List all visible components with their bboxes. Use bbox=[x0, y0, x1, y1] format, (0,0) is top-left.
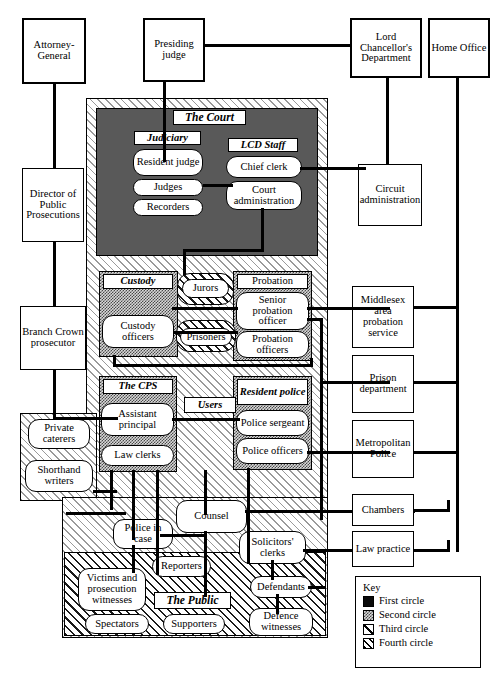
connector-cps-down-c bbox=[156, 470, 159, 575]
node-reporters: Reporters bbox=[152, 556, 211, 577]
node-label: Custody officers bbox=[105, 321, 171, 342]
external-box-home-office[interactable]: Home Office bbox=[428, 18, 490, 78]
connector-police-down-v bbox=[247, 468, 250, 564]
connector-custody-row-h bbox=[172, 307, 238, 310]
connector-probation-to-prison-h bbox=[307, 318, 323, 321]
connector-prison-dept-in bbox=[320, 381, 390, 384]
connector-solicitors-to-defendants bbox=[271, 560, 274, 580]
external-box-middlesex-area-probation-service[interactable]: Middlesex area probation service bbox=[352, 286, 414, 348]
external-box-law-practice[interactable]: Law practice bbox=[352, 531, 414, 567]
connector-chambers-right bbox=[414, 509, 450, 512]
connector-shorthand-to-public bbox=[93, 490, 117, 493]
legend-label-third-circle: Third circle bbox=[379, 624, 428, 635]
group-label-the-public: The Public bbox=[154, 592, 231, 609]
external-box-presiding-judge[interactable]: Presiding judge bbox=[143, 18, 205, 82]
node-label: Spectators bbox=[95, 619, 139, 630]
external-box-attorney-general[interactable]: Attorney-General bbox=[22, 18, 86, 84]
node-label: Probation officers bbox=[239, 334, 306, 355]
node-judges: Judges bbox=[133, 179, 203, 196]
node-court-administration: Court administration bbox=[226, 181, 302, 210]
connector-lawpractice-right bbox=[414, 549, 450, 552]
connector-defendants-right bbox=[308, 586, 326, 589]
connector-lawpractice-right-v bbox=[447, 540, 450, 552]
node-police-sergeant: Police sergeant bbox=[236, 410, 309, 436]
connector-home-office-to-middlesex bbox=[414, 306, 459, 309]
group-label-custody: Custody bbox=[103, 274, 173, 289]
group-label-lcd-staff: LCD Staff bbox=[228, 138, 298, 152]
node-counsel: Counsel bbox=[176, 500, 247, 533]
legend-row-fourth-circle: Fourth circle bbox=[363, 638, 474, 649]
node-label: Shorthand writers bbox=[28, 465, 90, 486]
legend-swatch-fourth-circle bbox=[363, 638, 374, 649]
node-label: Law clerks bbox=[114, 450, 160, 461]
external-box-label: Metropolitan Police bbox=[354, 438, 412, 460]
node-custody-officers: Custody officers bbox=[102, 315, 174, 348]
node-spectators: Spectators bbox=[85, 614, 149, 634]
external-box-metropolitan-police[interactable]: Metropolitan Police bbox=[352, 420, 414, 478]
external-box-director-public-prosecutions[interactable]: Director of Public Prosecutions bbox=[22, 168, 84, 242]
node-label: Counsel bbox=[194, 511, 228, 522]
connector-home-office-to-prison bbox=[414, 381, 459, 384]
external-box-label: Attorney-General bbox=[25, 40, 83, 62]
external-box-label: Lord Chancellor's Department bbox=[353, 32, 419, 65]
legend-swatch-third-circle bbox=[363, 624, 374, 635]
connector-home-office-to-met bbox=[414, 451, 459, 454]
legend-row-first-circle: First circle bbox=[363, 596, 474, 607]
connector-presiding-to-court bbox=[163, 82, 166, 162]
connector-attorney-to-dpp bbox=[53, 84, 56, 170]
node-victims-and-prosecution-witnesses: Victims and prosecution witnesses bbox=[78, 568, 146, 611]
connector-branch-prosecutor-to-cps-h bbox=[53, 417, 118, 420]
court-organisation-diagram: The Court Judiciary LCD Staff Resident j… bbox=[0, 0, 497, 683]
external-box-prison-department[interactable]: Prison department bbox=[352, 355, 414, 413]
connector-custody-bottom-h bbox=[113, 364, 313, 367]
node-resident-judge: Resident judge bbox=[133, 149, 203, 176]
connector-dpp-to-branch-prosecutor bbox=[53, 242, 56, 308]
node-supporters: Supporters bbox=[163, 614, 225, 634]
node-senior-probation-officer: Senior probation officer bbox=[236, 292, 309, 330]
node-label: Court administration bbox=[229, 185, 299, 206]
node-label: Senior probation officer bbox=[239, 295, 306, 327]
connector-courtadmin-down-h bbox=[183, 249, 264, 252]
connector-counsel-to-police bbox=[160, 534, 205, 537]
node-label: Solicitors' clerks bbox=[242, 537, 303, 558]
connector-upper-band-h bbox=[66, 512, 126, 515]
connector-judiciary-to-lcd bbox=[203, 184, 233, 187]
connector-probation-bottom-v bbox=[310, 358, 313, 367]
legend-title: Key bbox=[363, 582, 474, 593]
legend-row-second-circle: Second circle bbox=[363, 610, 474, 621]
connector-senior-probation-to-middlesex bbox=[307, 307, 390, 310]
external-box-label: Law practice bbox=[356, 544, 411, 555]
legend-label-second-circle: Second circle bbox=[379, 610, 436, 621]
connector-police-to-met bbox=[307, 451, 390, 454]
node-label: Resident judge bbox=[137, 157, 200, 168]
external-box-lord-chancellors-department[interactable]: Lord Chancellor's Department bbox=[350, 18, 422, 78]
connector-custody-to-probation bbox=[174, 331, 238, 334]
external-box-branch-crown-prosecutor[interactable]: Branch Crown prosecutor bbox=[20, 306, 86, 370]
external-box-chambers[interactable]: Chambers bbox=[352, 494, 414, 526]
node-label: Supporters bbox=[171, 619, 217, 630]
external-box-label: Presiding judge bbox=[146, 39, 202, 61]
connector-lcd-to-circuit bbox=[386, 78, 389, 176]
connector-cps-to-police bbox=[172, 418, 240, 421]
group-label-the-court: The Court bbox=[173, 110, 246, 125]
node-probation-officers: Probation officers bbox=[236, 331, 309, 358]
connector-home-office-down bbox=[456, 78, 459, 552]
external-box-circuit-administration[interactable]: Circuit administration bbox=[358, 164, 422, 226]
node-chief-clerk: Chief clerk bbox=[226, 156, 302, 178]
node-label: Defendants bbox=[257, 582, 305, 593]
connector-courtadmin-to-jurors bbox=[183, 249, 186, 275]
external-box-label: Prison department bbox=[354, 373, 412, 395]
node-label: Judges bbox=[154, 182, 183, 193]
legend-swatch-first-circle bbox=[363, 596, 374, 607]
node-defence-witnesses: Defence witnesses bbox=[249, 608, 313, 636]
node-label: Victims and prosecution witnesses bbox=[81, 573, 143, 605]
group-label-probation: Probation bbox=[237, 274, 308, 289]
connector-chambers-right-v bbox=[447, 500, 450, 512]
legend-label-first-circle: First circle bbox=[379, 596, 424, 607]
legend-swatch-second-circle bbox=[363, 610, 374, 621]
node-label: Jurors bbox=[193, 283, 219, 294]
legend-row-third-circle: Third circle bbox=[363, 624, 474, 635]
external-box-label: Home Office bbox=[432, 43, 487, 54]
connector-police-down-v2 bbox=[204, 470, 207, 515]
node-label: Chief clerk bbox=[241, 162, 288, 173]
